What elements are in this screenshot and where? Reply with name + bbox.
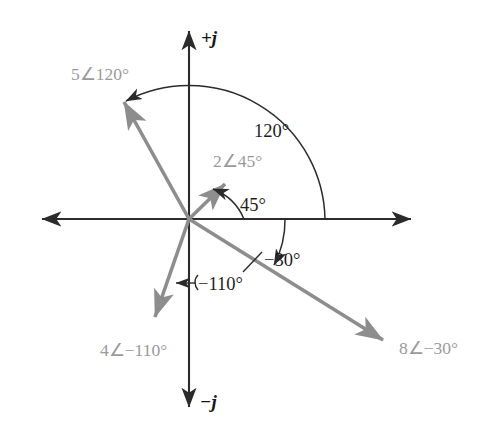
phasor-2-at-45-label: 2∠45° bbox=[213, 151, 262, 171]
diagram-canvas: +j −j 5∠120° 2∠45° 8∠−30° 4∠−110° 120° 4… bbox=[0, 0, 492, 433]
phasor-5-at-120-line bbox=[124, 102, 189, 219]
imaginary-negative-axis-label: −j bbox=[200, 391, 218, 412]
arc-120-label: 120° bbox=[254, 121, 289, 141]
phasor-5-at-120-label: 5∠120° bbox=[71, 64, 129, 84]
phasor-2-at-45-line bbox=[189, 184, 225, 219]
arc-minus-30-label: −30° bbox=[264, 250, 300, 270]
leader-minus-110-group bbox=[176, 275, 198, 290]
phasor-8-at-minus-30-label: 8∠−30° bbox=[399, 338, 458, 358]
phasor-diagram: +j −j 5∠120° 2∠45° 8∠−30° 4∠−110° 120° 4… bbox=[0, 0, 492, 433]
phasor-4-at-minus-110-line bbox=[155, 219, 189, 317]
axes-group bbox=[42, 31, 411, 407]
arc-45-label: 45° bbox=[240, 195, 266, 215]
imaginary-positive-axis-label: +j bbox=[201, 27, 218, 48]
leader-minus-110-label: −110° bbox=[198, 274, 243, 294]
phasor-4-at-minus-110-label: 4∠−110° bbox=[100, 340, 167, 360]
